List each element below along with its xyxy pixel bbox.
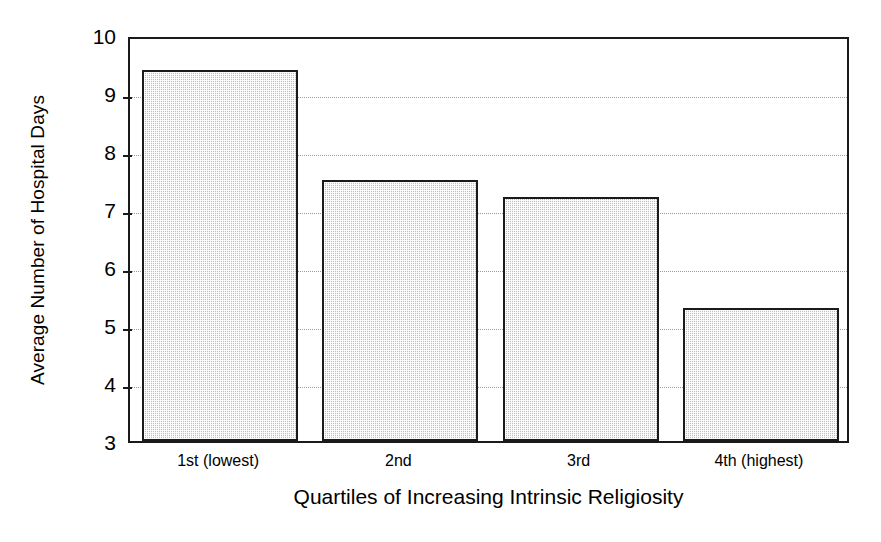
- x-axis-title: Quartiles of Increasing Intrinsic Religi…: [128, 484, 849, 510]
- y-tick-label-4: 4: [80, 374, 116, 395]
- x-axis-tick-labels: 1st (lowest)2nd3rd4th (highest): [128, 450, 849, 474]
- bar-3: [503, 197, 659, 441]
- y-tick-mark-6: [123, 271, 132, 273]
- y-tick-mark-5: [123, 329, 132, 331]
- bar-chart: Average Number of Hospital Days 34567891…: [0, 0, 881, 542]
- x-tick-label-3: 3rd: [489, 450, 669, 472]
- bar-1: [142, 70, 298, 441]
- bar-2: [322, 180, 478, 441]
- x-tick-label-1: 1st (lowest): [128, 450, 308, 472]
- y-tick-mark-7: [123, 213, 132, 215]
- y-tick-label-7: 7: [80, 200, 116, 221]
- bar-4: [683, 308, 839, 441]
- y-tick-label-6: 6: [80, 258, 116, 279]
- plot-inner: [130, 39, 847, 441]
- y-axis-tick-labels: 345678910: [80, 0, 116, 542]
- y-axis-title: Average Number of Hospital Days: [24, 37, 52, 443]
- y-tick-label-8: 8: [80, 142, 116, 163]
- x-tick-label-4: 4th (highest): [669, 450, 849, 472]
- y-tick-mark-4: [123, 387, 132, 389]
- x-tick-label-2: 2nd: [308, 450, 488, 472]
- y-tick-label-5: 5: [80, 316, 116, 337]
- plot-area: [128, 37, 849, 443]
- y-tick-label-9: 9: [80, 84, 116, 105]
- y-tick-mark-9: [123, 97, 132, 99]
- y-tick-mark-8: [123, 155, 132, 157]
- y-tick-label-3: 3: [80, 432, 116, 453]
- y-tick-label-10: 10: [80, 26, 116, 47]
